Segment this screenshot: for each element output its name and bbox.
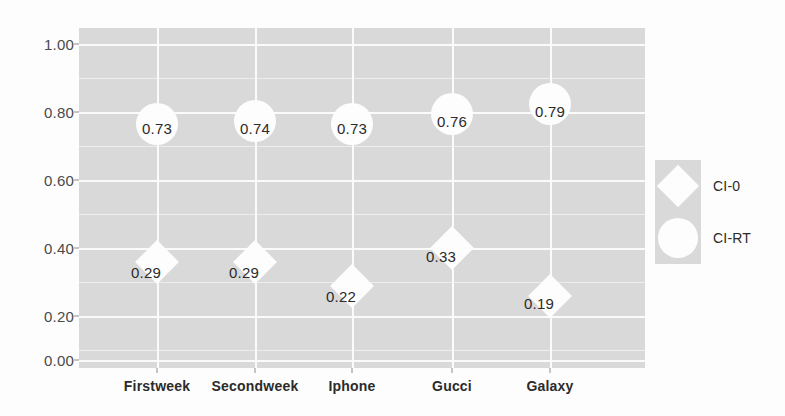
y-tick-mark-0.40 [74, 248, 79, 249]
diamond-icon [657, 165, 699, 207]
y-tick-label-0.20: 0.20 [12, 308, 74, 325]
gridline-y-0.90 [79, 78, 645, 79]
gridline-y-0.60 [79, 180, 645, 182]
y-tick-mark-0.20 [74, 316, 79, 317]
value-label-ci-0-galaxy: 0.19 [524, 295, 554, 312]
x-tick-label-galaxy: Galaxy [526, 378, 573, 394]
plot-panel [79, 28, 645, 368]
x-tick-mark-secondweek [255, 368, 256, 373]
value-label-ci-0-iphone: 0.22 [326, 288, 356, 305]
x-tick-label-firstweek: Firstweek [124, 378, 190, 394]
legend-label-ci-0: CI-0 [713, 178, 740, 194]
y-tick-mark-1.00 [74, 44, 79, 45]
x-tick-mark-galaxy [550, 368, 551, 373]
chart-container: 0.73 0.74 0.73 0.76 0.79 0.29 0.29 0.22 … [0, 0, 785, 416]
legend-label-ci-rt: CI-RT [713, 230, 751, 246]
x-tick-label-iphone: Iphone [328, 378, 375, 394]
circle-icon [658, 218, 698, 258]
y-tick-label-0.60: 0.60 [12, 172, 74, 189]
value-label-ci-rt-gucci: 0.76 [437, 113, 467, 130]
value-label-ci-rt-galaxy: 0.79 [535, 103, 565, 120]
gridline-y-0.50 [79, 214, 645, 215]
gridline-y-0.20 [79, 316, 645, 318]
gridline-x-firstweek [157, 28, 159, 368]
y-tick-mark-0.80 [74, 112, 79, 113]
gridline-y-1.00 [79, 44, 645, 46]
value-label-ci-rt-iphone: 0.73 [337, 120, 367, 137]
value-label-ci-0-secondweek: 0.29 [229, 264, 259, 281]
x-tick-mark-gucci [452, 368, 453, 373]
x-tick-label-gucci: Gucci [432, 378, 472, 394]
y-tick-label-0.40: 0.40 [12, 240, 74, 257]
y-tick-mark-0.60 [74, 180, 79, 181]
value-label-ci-0-gucci: 0.33 [426, 248, 456, 265]
gridline-y-0.70 [79, 146, 645, 147]
x-tick-label-secondweek: Secondweek [212, 378, 299, 394]
y-tick-label-0.00: 0.00 [12, 352, 74, 369]
y-tick-label-1.00: 1.00 [12, 36, 74, 53]
value-label-ci-rt-firstweek: 0.73 [142, 120, 172, 137]
gridline-y-0.00 [79, 360, 645, 362]
legend-key-ci-0 [655, 160, 701, 212]
gridline-x-gucci [452, 28, 454, 368]
value-label-ci-0-firstweek: 0.29 [131, 264, 161, 281]
value-label-ci-rt-secondweek: 0.74 [240, 120, 270, 137]
gridline-y-0.10 [79, 350, 645, 351]
legend-key-ci-rt [655, 212, 701, 264]
y-tick-mark-0.00 [74, 360, 79, 361]
y-tick-label-0.80: 0.80 [12, 104, 74, 121]
x-tick-mark-firstweek [157, 368, 158, 373]
gridline-x-secondweek [255, 28, 257, 368]
gridline-x-iphone [352, 28, 354, 368]
x-tick-mark-iphone [352, 368, 353, 373]
